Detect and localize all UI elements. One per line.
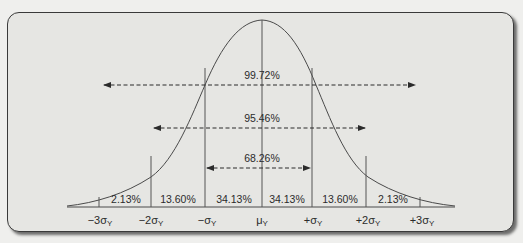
tick-minus-1-sigma: −σY: [198, 214, 217, 228]
segment-label-1: 2.13%: [111, 193, 141, 205]
segment-label-2: 13.60%: [160, 193, 196, 205]
tick-minus-2-sigma: −2σY: [139, 214, 164, 228]
segment-label-3: 34.13%: [216, 193, 252, 205]
segment-label-4: 34.13%: [269, 193, 305, 205]
tick-plus-2-sigma: +2σY: [356, 214, 381, 228]
tick-plus-1-sigma: +σY: [304, 214, 323, 228]
interval-label-95: 95.46%: [244, 112, 280, 124]
normal-distribution-diagram: 99.72% 95.46% 68.26% 2.13% 13.60% 34.13%…: [0, 0, 523, 243]
tick-mean: μY: [256, 214, 268, 228]
tick-minus-3-sigma: −3σY: [88, 214, 113, 228]
interval-label-99: 99.72%: [244, 69, 280, 81]
segment-label-6: 2.13%: [378, 193, 408, 205]
interval-label-68: 68.26%: [244, 152, 280, 164]
segment-label-5: 13.60%: [322, 193, 358, 205]
tick-plus-3-sigma: +3σY: [410, 214, 435, 228]
